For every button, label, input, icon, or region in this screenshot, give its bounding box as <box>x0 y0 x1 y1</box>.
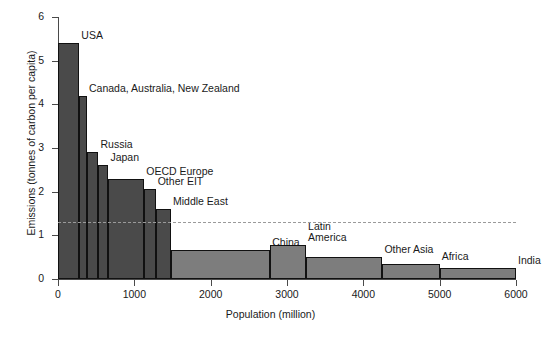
x-tick-5000 <box>440 280 441 286</box>
y-tick-label-2: 2 <box>0 186 44 196</box>
y-tick-4 <box>52 104 58 105</box>
x-tick-label-1000: 1000 <box>104 288 164 300</box>
bar-usa[interactable] <box>58 43 79 279</box>
y-tick-label-6: 6 <box>0 11 44 21</box>
bar-label-russia: Russia <box>100 139 132 151</box>
y-axis-label: Emissions (tonnes of carbon per capita) <box>25 28 37 258</box>
bar-label-other-eit: Other EIT <box>158 176 204 188</box>
bar-china[interactable] <box>171 250 270 279</box>
bar-label-other-asia: Other Asia <box>384 244 433 256</box>
bar-russia[interactable] <box>87 152 98 279</box>
y-tick-label-0: 0 <box>0 273 44 283</box>
x-tick-3000 <box>287 280 288 286</box>
bar-middle-east[interactable] <box>156 209 171 279</box>
bar-label-canada-australia-new-zealand: Canada, Australia, New Zealand <box>89 83 240 95</box>
y-tick-label-1: 1 <box>0 229 44 239</box>
world-average-reference-line <box>58 222 516 223</box>
x-tick-label-6000: 6000 <box>486 288 546 300</box>
x-axis-label: Population (million) <box>0 308 541 320</box>
bar-canada-australia-new-zealand[interactable] <box>79 96 87 279</box>
x-tick-label-3000: 3000 <box>257 288 317 300</box>
bar-label-japan: Japan <box>110 152 139 164</box>
x-tick-6000 <box>516 280 517 286</box>
y-tick-6 <box>52 17 58 18</box>
y-tick-3 <box>52 148 58 149</box>
y-tick-5 <box>52 61 58 62</box>
x-tick-0 <box>58 280 59 286</box>
x-tick-label-4000: 4000 <box>333 288 393 300</box>
y-tick-label-3: 3 <box>0 142 44 152</box>
bar-india[interactable] <box>440 268 516 279</box>
bar-label-latin-america: Latin America <box>308 221 368 244</box>
y-tick-label-5: 5 <box>0 55 44 65</box>
x-tick-1000 <box>134 280 135 286</box>
y-tick-1 <box>52 235 58 236</box>
y-tick-2 <box>52 192 58 193</box>
bar-other-asia[interactable] <box>306 257 382 279</box>
bar-label-africa: Africa <box>442 251 469 263</box>
y-tick-label-4: 4 <box>0 98 44 108</box>
x-tick-2000 <box>211 280 212 286</box>
bar-latin-america[interactable] <box>270 245 306 279</box>
x-tick-4000 <box>363 280 364 286</box>
x-tick-label-5000: 5000 <box>410 288 470 300</box>
x-tick-label-2000: 2000 <box>181 288 241 300</box>
bar-label-india: India <box>518 255 541 267</box>
bar-label-usa: USA <box>81 30 103 42</box>
bar-africa[interactable] <box>382 264 439 279</box>
bar-oecd-europe[interactable] <box>108 179 144 279</box>
bar-other-eit[interactable] <box>144 189 155 279</box>
x-tick-label-0: 0 <box>28 288 88 300</box>
bar-label-middle-east: Middle East <box>173 196 228 208</box>
